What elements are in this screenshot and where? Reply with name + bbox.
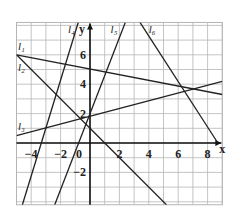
- line-label: l₁: [18, 40, 25, 52]
- x-axis-label: x: [219, 142, 225, 156]
- y-tick-label: 6: [80, 48, 86, 62]
- grid: [17, 22, 223, 204]
- x-tick-label: 6: [175, 147, 181, 161]
- x-tick-label: 8: [205, 147, 211, 161]
- line-label: l₅: [111, 23, 118, 35]
- y-axis-label: y: [79, 22, 85, 36]
- line-label: l₂: [18, 61, 25, 73]
- x-tick-label: 4: [146, 147, 152, 161]
- x-tick-label: 2: [116, 147, 122, 161]
- line-label: l₃: [18, 120, 25, 132]
- x-tick-label: 0: [76, 147, 82, 161]
- y-tick-label: 4: [80, 77, 86, 91]
- x-tick-label: −2: [54, 147, 67, 161]
- y-axis-arrow-icon: [87, 23, 93, 29]
- x-tick-label: −4: [25, 147, 38, 161]
- line-l6: [140, 22, 218, 143]
- labels: −4−202468−2246xyl₁l₂l₃l₄l₅l₆: [18, 22, 225, 179]
- line-label: l₄: [68, 23, 75, 35]
- y-tick-label: 2: [80, 107, 86, 121]
- coordinate-plot: −4−202468−2246xyl₁l₂l₃l₄l₅l₆: [0, 0, 231, 219]
- y-tick-label: −2: [73, 165, 86, 179]
- axes: [17, 23, 222, 204]
- line-label: l₆: [149, 23, 156, 35]
